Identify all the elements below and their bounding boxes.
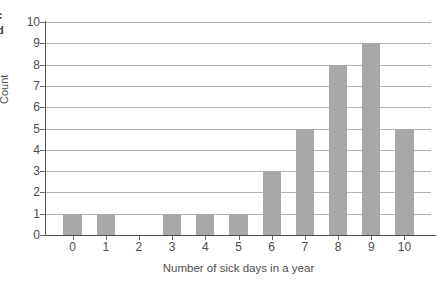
bar bbox=[263, 171, 281, 235]
y-tick-mark bbox=[40, 192, 46, 193]
bar bbox=[362, 43, 380, 235]
bar bbox=[329, 65, 347, 235]
plot-area bbox=[46, 22, 431, 235]
y-tick-label: 1 bbox=[10, 208, 40, 220]
x-tick-label: 10 bbox=[384, 241, 424, 253]
y-tick-mark bbox=[40, 22, 46, 23]
gridline bbox=[46, 22, 431, 23]
y-tick-label: 2 bbox=[10, 186, 40, 198]
y-tick-mark bbox=[40, 43, 46, 44]
y-tick-mark bbox=[40, 65, 46, 66]
y-tick-mark bbox=[40, 171, 46, 172]
bar bbox=[63, 214, 81, 235]
bar-chart: Count 012345678910 Number of sick days i… bbox=[0, 0, 441, 293]
bar bbox=[97, 214, 115, 235]
y-tick-mark bbox=[40, 129, 46, 130]
y-tick-mark bbox=[40, 86, 46, 87]
y-tick-mark bbox=[40, 214, 46, 215]
y-tick-label: 0 bbox=[10, 229, 40, 241]
bar bbox=[163, 214, 181, 235]
y-tick-label: 6 bbox=[10, 101, 40, 113]
y-tick-mark bbox=[40, 150, 46, 151]
y-tick-label: 8 bbox=[10, 59, 40, 71]
bar bbox=[229, 214, 247, 235]
y-tick-mark bbox=[40, 235, 46, 236]
y-tick-label: 4 bbox=[10, 144, 40, 156]
y-axis-tick-labels: 012345678910 bbox=[4, 0, 40, 293]
bar bbox=[296, 129, 314, 236]
bar bbox=[395, 129, 413, 236]
y-tick-label: 3 bbox=[10, 165, 40, 177]
x-axis-title: Number of sick days in a year bbox=[46, 262, 431, 274]
bar bbox=[196, 214, 214, 235]
y-tick-mark bbox=[40, 107, 46, 108]
y-tick-label: 10 bbox=[10, 16, 40, 28]
y-tick-label: 9 bbox=[10, 37, 40, 49]
y-tick-label: 7 bbox=[10, 80, 40, 92]
y-tick-label: 5 bbox=[10, 123, 40, 135]
